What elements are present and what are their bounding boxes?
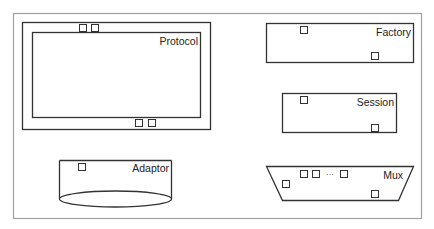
mux-port-icon[interactable] xyxy=(372,191,379,198)
factory-component[interactable]: Factory xyxy=(267,24,414,63)
session-component[interactable]: Session xyxy=(283,94,397,133)
adaptor-port-icon[interactable] xyxy=(79,164,86,171)
session-label: Session xyxy=(357,96,395,108)
mux-component[interactable]: Mux ··· xyxy=(267,167,414,201)
session-port-icon[interactable] xyxy=(301,97,308,104)
protocol-port-icon[interactable] xyxy=(149,120,156,127)
mux-ellipsis: ··· xyxy=(326,170,334,179)
component-diagram: Protocol Factory Session Adaptor Mux ··· xyxy=(0,0,434,229)
protocol-port-icon[interactable] xyxy=(92,25,99,32)
mux-port-icon[interactable] xyxy=(313,171,320,178)
protocol-label: Protocol xyxy=(159,35,198,47)
factory-port-icon[interactable] xyxy=(372,53,379,60)
factory-port-icon[interactable] xyxy=(301,27,308,34)
mux-port-icon[interactable] xyxy=(341,171,348,178)
protocol-port-icon[interactable] xyxy=(136,120,143,127)
mux-port-icon[interactable] xyxy=(301,171,308,178)
session-port-icon[interactable] xyxy=(372,125,379,132)
factory-label: Factory xyxy=(376,26,412,38)
protocol-port-icon[interactable] xyxy=(80,25,87,32)
protocol-component[interactable]: Protocol xyxy=(23,23,211,130)
mux-label: Mux xyxy=(383,169,404,181)
mux-port-icon[interactable] xyxy=(283,181,290,188)
adaptor-label: Adaptor xyxy=(132,162,169,174)
adaptor-base-ellipse xyxy=(60,191,172,207)
adaptor-component[interactable]: Adaptor xyxy=(60,161,172,208)
